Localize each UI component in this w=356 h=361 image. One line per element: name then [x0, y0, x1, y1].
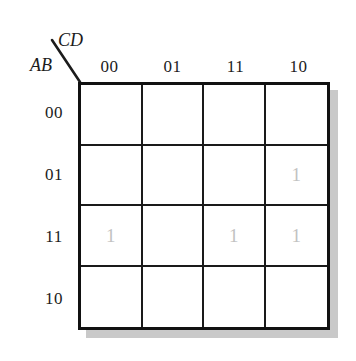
column-header-2: 11	[204, 54, 267, 80]
row-variables-label: AB	[30, 55, 52, 76]
row-header-2: 11	[34, 206, 74, 268]
cell-value: 1	[292, 226, 302, 245]
kmap-cell-r3c0[interactable]	[81, 267, 143, 328]
cell-value: 1	[106, 226, 116, 245]
kmap-cell-r0c1[interactable]	[143, 85, 205, 146]
kmap-cell-r1c1[interactable]	[143, 146, 205, 207]
karnaugh-map-figure: CD AB 00 01 11 10 00 01 11 10 1 1 1 1	[0, 0, 356, 361]
kmap-cell-r3c1[interactable]	[143, 267, 205, 328]
column-header-0: 00	[78, 54, 141, 80]
kmap-cell-r0c3[interactable]	[266, 85, 328, 146]
kmap-cell-r3c3[interactable]	[266, 267, 328, 328]
cell-value: 1	[292, 165, 302, 184]
row-header-1: 01	[34, 144, 74, 206]
kmap-grid: 1 1 1 1	[78, 82, 330, 330]
kmap-cell-r0c0[interactable]	[81, 85, 143, 146]
kmap-cell-r2c3[interactable]: 1	[266, 206, 328, 267]
kmap-cell-r1c2[interactable]	[204, 146, 266, 207]
row-header-0: 00	[34, 82, 74, 144]
column-variables-label: CD	[58, 30, 83, 51]
kmap-cell-r2c1[interactable]	[143, 206, 205, 267]
kmap-cell-r0c2[interactable]	[204, 85, 266, 146]
row-header-3: 10	[34, 268, 74, 330]
kmap-cell-r3c2[interactable]	[204, 267, 266, 328]
column-header-row: 00 01 11 10	[78, 54, 330, 80]
kmap-cell-r2c2[interactable]: 1	[204, 206, 266, 267]
kmap-cell-r2c0[interactable]: 1	[81, 206, 143, 267]
kmap-cell-r1c0[interactable]	[81, 146, 143, 207]
kmap-cell-r1c3[interactable]: 1	[266, 146, 328, 207]
cell-value: 1	[229, 226, 239, 245]
row-header-column: 00 01 11 10	[34, 82, 74, 330]
column-header-1: 01	[141, 54, 204, 80]
column-header-3: 10	[267, 54, 330, 80]
